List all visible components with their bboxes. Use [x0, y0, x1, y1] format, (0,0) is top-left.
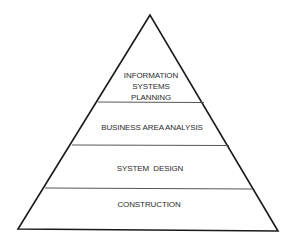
layer-label-line: BUSINESS AREA ANALYSIS	[101, 123, 203, 132]
layer-label-line: CONSTRUCTION	[117, 200, 181, 209]
pyramid-diagram: INFORMATION SYSTEMS PLANNING BUSINESS AR…	[0, 0, 294, 243]
layer-label-line: SYSTEM DESIGN	[117, 164, 184, 173]
layer-system-design: SYSTEM DESIGN	[117, 164, 184, 173]
layer-label-line: INFORMATION	[124, 71, 179, 80]
layer-construction: CONSTRUCTION	[117, 200, 181, 209]
divider-1	[98, 102, 204, 103]
layer-business-area-analysis: BUSINESS AREA ANALYSIS	[101, 123, 203, 132]
divider-2	[72, 145, 229, 146]
layer-label-line: PLANNING	[131, 93, 171, 102]
layer-label-line: SYSTEMS	[132, 82, 170, 91]
pyramid-graphic: INFORMATION SYSTEMS PLANNING BUSINESS AR…	[0, 0, 294, 243]
